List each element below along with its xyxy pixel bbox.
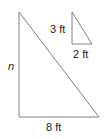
large-triangle-base-label: 8 ft — [46, 122, 61, 133]
small-triangle — [72, 12, 92, 44]
large-triangle-height-label: n — [8, 61, 14, 72]
small-triangle-height-label: 3 ft — [50, 24, 65, 35]
diagram-canvas — [0, 0, 104, 139]
small-triangle-base-label: 2 ft — [73, 49, 88, 60]
